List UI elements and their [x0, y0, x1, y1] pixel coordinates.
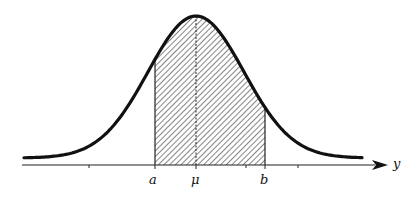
axis-label-y: y — [393, 156, 400, 171]
label-a: a — [149, 172, 157, 187]
label-mu: μ — [191, 172, 199, 187]
label-b: b — [260, 172, 268, 187]
normal-distribution-diagram: a μ b y — [0, 0, 417, 199]
diagram-canvas — [0, 0, 417, 199]
